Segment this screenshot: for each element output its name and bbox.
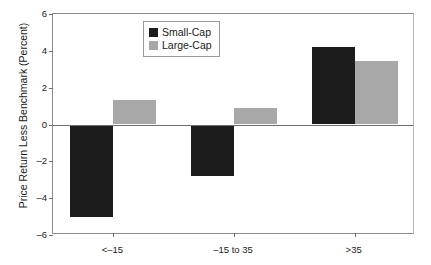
- plot-area: 6420–2–4–6: [52, 13, 414, 234]
- bar-small-cap-group-3: [312, 47, 355, 124]
- x-tick-label: <–15: [52, 244, 172, 255]
- y-tick-label: –6: [27, 229, 47, 241]
- y-tick-label: –4: [27, 192, 47, 204]
- y-tick-mark: [49, 51, 53, 52]
- y-tick-label: 0: [27, 119, 47, 131]
- y-tick-label: 2: [27, 82, 47, 94]
- y-tick-mark: [49, 88, 53, 89]
- y-tick-mark: [49, 198, 53, 199]
- chart-figure: Price Return Less Benchmark (Percent) 64…: [0, 0, 431, 265]
- legend-item-large-cap: Large-Cap: [149, 39, 212, 52]
- bar-small-cap-group-2: [191, 125, 234, 177]
- y-tick-label: 6: [27, 8, 47, 20]
- legend-label-large-cap: Large-Cap: [162, 39, 212, 52]
- bar-large-cap-group-2: [234, 108, 277, 125]
- y-tick-mark: [49, 161, 53, 162]
- legend-item-small-cap: Small-Cap: [149, 26, 212, 39]
- y-tick-label: –2: [27, 155, 47, 167]
- bar-small-cap-group-1: [70, 125, 113, 217]
- legend-swatch-large-cap-icon: [149, 41, 158, 50]
- bar-large-cap-group-3: [355, 61, 398, 125]
- zero-baseline: [53, 125, 413, 126]
- y-tick-label: 4: [27, 45, 47, 57]
- chart-legend: Small-Cap Large-Cap: [143, 21, 220, 57]
- x-axis-labels: <–15–15 to 35>35: [52, 235, 414, 261]
- bar-large-cap-group-1: [113, 100, 156, 125]
- y-tick-mark: [49, 14, 53, 15]
- x-tick-label: >35: [294, 244, 414, 255]
- x-tick-label: –15 to 35: [173, 244, 293, 255]
- legend-label-small-cap: Small-Cap: [162, 26, 211, 39]
- legend-swatch-small-cap-icon: [149, 28, 158, 37]
